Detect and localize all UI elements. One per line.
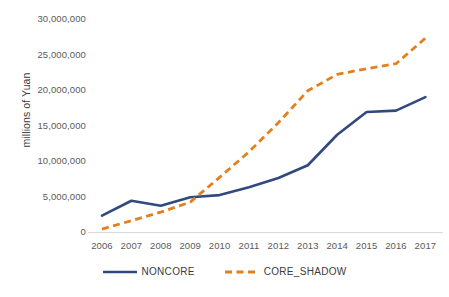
plot-area	[0, 0, 449, 297]
series-line-core-shadow	[102, 38, 425, 229]
legend-item-noncore[interactable]: NONCORE	[103, 266, 195, 277]
legend-swatch-core-shadow-icon	[225, 267, 259, 277]
legend-item-core-shadow[interactable]: CORE_SHADOW	[225, 266, 347, 277]
legend-swatch-noncore-icon	[103, 267, 137, 277]
series-line-noncore	[102, 97, 425, 216]
legend-label-core-shadow: CORE_SHADOW	[264, 266, 347, 277]
chart-legend: NONCORE CORE_SHADOW	[0, 266, 449, 277]
line-chart: millions of Yuan 05,000,00010,000,00015,…	[0, 0, 449, 297]
x-axis-tick-label: 2017	[408, 240, 442, 251]
legend-label-noncore: NONCORE	[142, 266, 195, 277]
